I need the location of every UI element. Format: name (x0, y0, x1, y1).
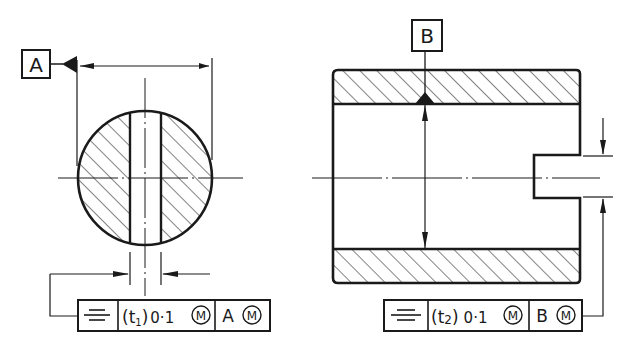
datum-ref-b: B (536, 306, 548, 326)
datum-a-box: A (22, 50, 50, 78)
datum-triangle-icon (62, 56, 77, 73)
left-view: A (22, 50, 270, 331)
tolerance-left: (t1)0·1 (122, 307, 174, 328)
svg-text:M: M (247, 309, 257, 323)
svg-text:M: M (561, 309, 571, 323)
top-wall-hatch (334, 71, 580, 104)
datum-a-label: A (29, 53, 43, 77)
symmetry-icon (391, 310, 421, 320)
feature-control-frame-left: (t1)0·1 M A M (78, 300, 270, 331)
leader-line (582, 199, 603, 316)
tolerance-right: (t2)0·1 (431, 307, 487, 327)
datum-ref-a: A (222, 306, 234, 326)
svg-text:M: M (196, 309, 206, 323)
symmetry-icon (84, 310, 110, 320)
right-view: B (312, 20, 613, 331)
datum-b-label: B (420, 24, 434, 48)
datum-b-box: B (412, 20, 442, 51)
drawing-canvas: A (0, 0, 629, 352)
feature-control-frame-right: (t2)0·1 M B M (384, 300, 582, 331)
svg-text:M: M (508, 309, 518, 323)
leader-line (50, 274, 78, 316)
bottom-wall-hatch (334, 249, 580, 282)
